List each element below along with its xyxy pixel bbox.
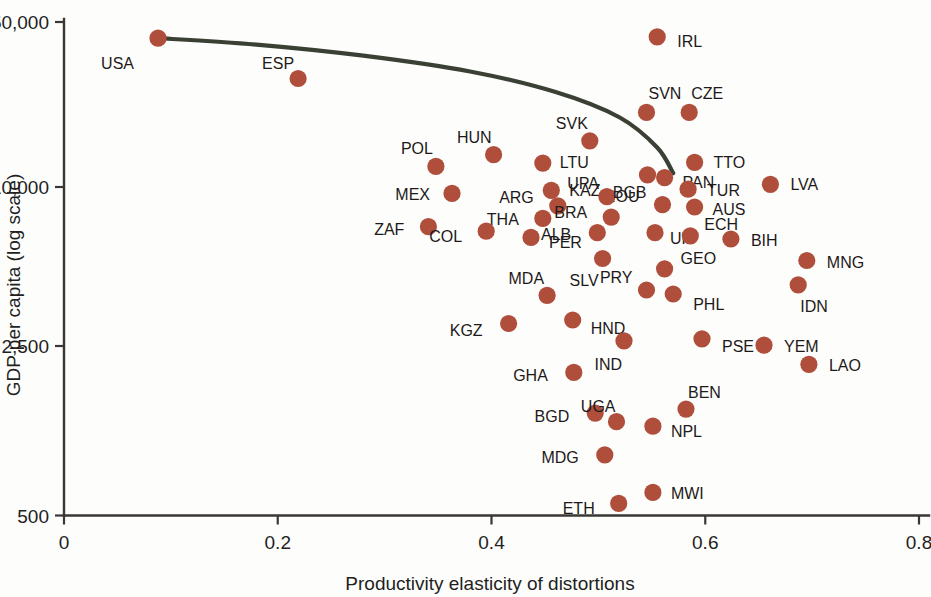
data-points: USAESPIRLSVNCZESVKPOLHUNLTUTTOPANROUTURL… [101, 28, 864, 517]
data-point-marker [500, 315, 517, 332]
data-point-marker [603, 209, 620, 226]
data-point-marker [677, 401, 694, 418]
data-point-label: BGD [535, 408, 570, 425]
data-point-marker [755, 337, 772, 354]
data-point: GEO [656, 250, 716, 278]
data-point-label: PRY [600, 269, 633, 286]
data-point-label: SVN [649, 85, 682, 102]
data-point-marker [798, 252, 815, 269]
data-point-marker [610, 495, 627, 512]
y-tick-label: 50,000 [0, 12, 49, 33]
data-point: IND [594, 332, 632, 373]
data-point: TUR [680, 181, 740, 200]
data-point-marker [800, 356, 817, 373]
data-point-marker [594, 250, 611, 267]
data-point-marker [565, 364, 582, 381]
data-point: LTU [534, 154, 589, 172]
data-point-marker [534, 210, 551, 227]
data-point: UGA [581, 398, 625, 431]
data-point-label: ARG [499, 189, 534, 206]
data-point: PHL [665, 285, 725, 313]
data-point: KGZ [450, 315, 517, 339]
data-point-label: LTU [560, 154, 589, 171]
data-point: YEM [755, 337, 818, 356]
data-point-marker [638, 281, 655, 298]
data-point-marker [682, 227, 699, 244]
data-point-marker [589, 224, 606, 241]
x-tick-label: 0 [59, 532, 70, 553]
data-point: LAO [800, 356, 861, 375]
data-point-label: PSE [722, 338, 754, 355]
data-point-marker [686, 154, 703, 171]
data-point: USA [101, 30, 167, 73]
data-point-label: SVK [556, 115, 588, 132]
data-point-marker [427, 158, 444, 175]
data-point: BRA [554, 204, 620, 226]
data-point: MDA [509, 270, 556, 304]
data-point-marker [686, 198, 703, 215]
data-point-marker [693, 330, 710, 347]
data-point-label: MWI [671, 485, 704, 502]
y-axis-title: GDP per capita (log scale) [3, 174, 24, 396]
data-point-label: UGA [581, 398, 616, 415]
data-point-label: BEN [688, 384, 721, 401]
x-tick-label: 0.2 [265, 532, 291, 553]
data-point: IRL [649, 28, 703, 50]
data-point-marker [615, 332, 632, 349]
x-tick-label: 0.8 [906, 532, 931, 553]
data-point-label: HUN [457, 129, 492, 146]
data-point-label: USA [101, 55, 134, 72]
data-point-marker [478, 223, 495, 240]
data-point-label: BIH [751, 232, 778, 249]
x-axis-tick-labels: 00.20.40.60.8 [59, 532, 931, 553]
data-point-label: TUR [707, 182, 740, 199]
data-point-marker [290, 70, 307, 87]
data-point-marker [649, 28, 666, 45]
data-point-marker [644, 484, 661, 501]
data-point-marker [596, 446, 613, 463]
data-point: HUN [457, 129, 502, 164]
data-point: BGB [613, 184, 671, 214]
axes [64, 19, 929, 516]
data-point-label: IND [594, 356, 622, 373]
data-point: HND [564, 311, 625, 337]
data-point-label: PHL [693, 296, 724, 313]
tick-marks [55, 22, 919, 525]
data-point-label: TTO [714, 154, 746, 171]
data-point: LVA [762, 176, 819, 194]
data-point-marker [581, 132, 598, 149]
data-point: SVK [556, 115, 599, 150]
data-point-label: LVA [790, 176, 818, 193]
data-point: MNG [798, 252, 864, 271]
data-point-marker [644, 418, 661, 435]
data-point-label: NPL [671, 423, 702, 440]
data-point-marker [762, 176, 779, 193]
data-point-label: MDA [509, 270, 545, 287]
x-tick-label: 0.6 [692, 532, 718, 553]
data-point: PSE [693, 330, 754, 355]
data-point: CZE [681, 85, 724, 121]
data-point-label: ECH [704, 216, 738, 233]
data-point: BIH [722, 230, 777, 249]
data-point: TTO [686, 154, 745, 172]
x-tick-label: 0.4 [478, 532, 505, 553]
chart-canvas: 5002,50010,00050,000 00.20.40.60.8 USAES… [0, 0, 931, 597]
data-point-marker [485, 146, 502, 163]
data-point: MEX [395, 185, 460, 204]
data-point-label: KGZ [450, 322, 483, 339]
data-point: MDG [541, 446, 613, 466]
data-point: SVN [638, 85, 682, 121]
data-point-marker [564, 311, 581, 328]
data-point-marker [539, 287, 556, 304]
data-point: ESP [262, 55, 307, 88]
data-point: MWI [644, 484, 703, 503]
data-point-label: BRA [554, 204, 587, 221]
data-point-marker [646, 224, 663, 241]
data-point-label: GHA [513, 367, 548, 384]
data-point: IDN [790, 276, 828, 315]
data-point-marker [638, 104, 655, 121]
data-point-marker [790, 276, 807, 293]
data-point-label: IDN [800, 298, 828, 315]
data-point-label: GEO [681, 250, 717, 267]
data-point-marker [681, 104, 698, 121]
